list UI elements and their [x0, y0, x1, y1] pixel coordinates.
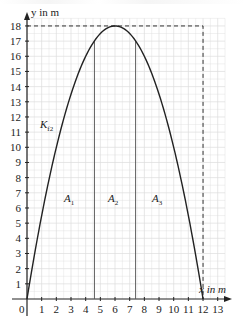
y-axis-title: y in m: [31, 6, 60, 18]
x-axis-arrow-icon: [224, 296, 232, 302]
x-tick-label: 5: [98, 303, 104, 315]
y-tick-label: 7: [16, 187, 22, 199]
y-tick-label: 11: [10, 126, 21, 138]
y-tick-label: 1: [16, 278, 22, 290]
y-tick-label: 13: [10, 96, 22, 108]
x-tick-label: 12: [198, 303, 209, 315]
y-tick-label: 10: [10, 141, 22, 153]
y-tick-label: 16: [10, 50, 22, 62]
x-tick-label: 13: [212, 303, 224, 315]
y-tick-label: 2: [16, 263, 22, 275]
x-tick-label: 11: [183, 303, 194, 315]
y-tick-label: 3: [16, 247, 22, 259]
origin-label: 0: [19, 303, 25, 315]
y-tick-label: 8: [16, 172, 22, 184]
area-label-a2: A2: [107, 192, 119, 207]
axis-ticks: 1234567891011121312345678910111213141516…: [10, 20, 224, 315]
y-tick-label: 4: [16, 232, 22, 244]
y-tick-label: 5: [16, 217, 22, 229]
y-tick-label: 9: [16, 156, 22, 168]
x-tick-label: 10: [168, 303, 180, 315]
y-tick-label: 15: [10, 65, 22, 77]
x-tick-label: 2: [54, 303, 60, 315]
curve-label: Kf2: [39, 118, 54, 133]
x-tick-label: 6: [112, 303, 118, 315]
parabola-chart: 1234567891011121312345678910111213141516…: [0, 0, 245, 330]
x-tick-label: 9: [156, 303, 162, 315]
y-tick-label: 6: [16, 202, 22, 214]
y-tick-label: 14: [10, 81, 22, 93]
y-tick-label: 17: [10, 35, 22, 47]
x-tick-label: 7: [127, 303, 133, 315]
x-tick-label: 8: [142, 303, 148, 315]
x-tick-label: 3: [68, 303, 74, 315]
x-tick-label: 1: [39, 303, 45, 315]
x-axis-title: x in m: [198, 283, 226, 295]
y-axis-arrow-icon: [24, 12, 30, 20]
area-label-a3: A3: [151, 192, 163, 207]
y-tick-label: 18: [10, 20, 22, 32]
x-tick-label: 4: [83, 303, 89, 315]
area-label-a1: A1: [63, 192, 75, 207]
y-tick-label: 12: [10, 111, 21, 123]
